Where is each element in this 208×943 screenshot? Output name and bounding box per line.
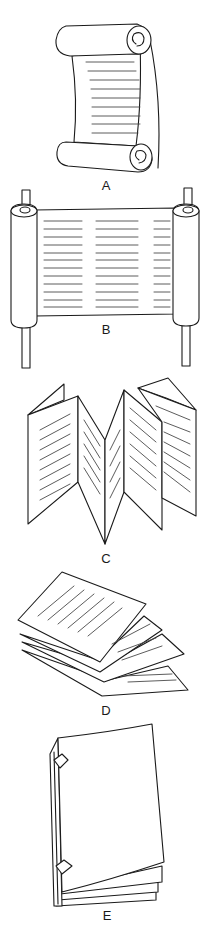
scroll-illustration (0, 0, 208, 180)
panel-c-accordion (0, 370, 208, 560)
panel-c-label: C (96, 551, 116, 566)
panel-b-label: B (96, 322, 116, 337)
panel-d-folded-stack (0, 570, 208, 710)
accordion-fold-illustration (0, 370, 208, 560)
codex-illustration (0, 720, 208, 920)
panel-e-codex (0, 720, 208, 920)
panel-d-label: D (96, 703, 116, 718)
panel-b-roller-scroll (0, 180, 208, 370)
panel-e-label: E (97, 908, 117, 923)
folded-stack-illustration (0, 570, 208, 710)
roller-scroll-illustration (0, 180, 208, 370)
panel-a-scroll (0, 0, 208, 180)
